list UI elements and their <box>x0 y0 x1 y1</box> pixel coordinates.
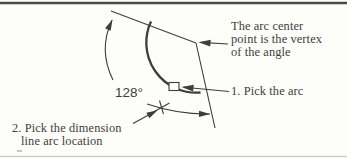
vertex-note-line3: of the angle <box>231 45 291 59</box>
step1-label: 1. Pick the arc <box>231 84 304 98</box>
vertex-note-line1: The arc center <box>231 19 304 33</box>
dimension-arrowhead-lower <box>199 111 210 117</box>
vertex-note-line2: point is the vertex <box>231 32 323 46</box>
step2-label-line2: line arc location <box>21 134 103 148</box>
angular-dimension-figure: 128° The arc center point is the vertex … <box>0 0 347 158</box>
vertex-note-arrowhead <box>198 39 210 47</box>
step2-label-line1: 2. Pick the dimension <box>12 121 121 135</box>
figure-canvas: 128° The arc center point is the vertex … <box>0 0 347 158</box>
angle-side-upper-line <box>111 11 196 43</box>
pick-box-marker <box>169 83 179 91</box>
angle-side-lower-line <box>196 43 215 128</box>
angle-value-label: 128° <box>115 85 143 100</box>
step2-arrowhead <box>146 107 159 118</box>
dimension-arrowhead-upper <box>105 18 115 31</box>
